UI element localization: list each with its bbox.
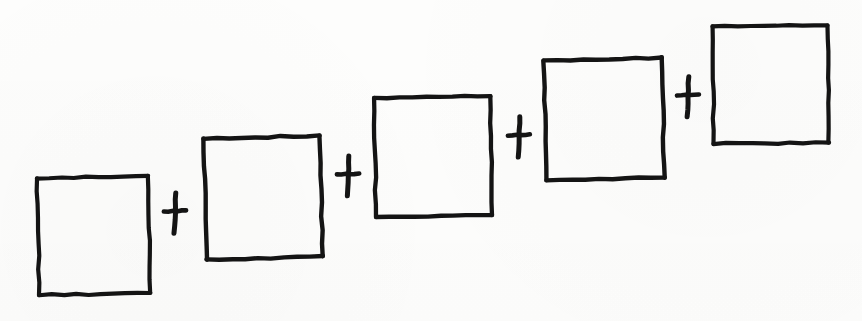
square-shape: [36, 175, 151, 296]
plus-horizontal-stroke: [164, 210, 186, 211]
squares-layer: [36, 25, 829, 296]
square-edge-left: [712, 26, 715, 143]
square-edge-left: [203, 138, 207, 259]
square-edge-top: [544, 57, 662, 61]
square-edge-bottom: [376, 215, 492, 218]
square-edge-left: [36, 178, 40, 295]
plus-operator: [337, 156, 359, 196]
square-edge-left: [543, 61, 547, 180]
square-edge-right: [147, 176, 151, 293]
plus-operator: [508, 117, 530, 157]
plus-horizontal-stroke: [337, 174, 359, 175]
square-edge-bottom: [206, 256, 322, 260]
square-edge-left: [374, 98, 377, 217]
square-shape: [203, 135, 323, 261]
square-edge-bottom: [546, 177, 664, 181]
plus-operator: [677, 77, 699, 117]
sketch-canvas: [0, 0, 862, 321]
square-shape: [543, 57, 665, 181]
square-edge-top: [712, 25, 827, 27]
square-edge-top: [203, 135, 319, 140]
square-edge-top: [37, 175, 148, 178]
plus-horizontal-stroke: [508, 134, 530, 135]
square-edge-right: [319, 136, 324, 256]
square-edge-top: [374, 96, 490, 99]
plus-operator: [164, 193, 186, 233]
square-shape: [374, 96, 493, 218]
square-shape: [712, 25, 830, 145]
square-edge-right: [661, 57, 665, 177]
square-edge-right: [490, 96, 493, 215]
operators-layer: [164, 77, 699, 233]
square-edge-bottom: [713, 142, 829, 145]
square-edge-bottom: [39, 292, 150, 296]
plus-horizontal-stroke: [677, 94, 699, 95]
hand-drawn-diagram: [0, 0, 862, 321]
square-edge-right: [827, 25, 830, 142]
